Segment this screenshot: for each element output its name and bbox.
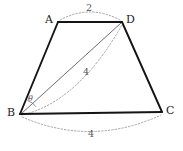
side-DC — [122, 22, 162, 112]
measure-label-BC: 4 — [88, 129, 94, 139]
arc-AD — [60, 12, 120, 20]
geometry-figure: A D B C 2 4 4 θ — [0, 0, 183, 151]
measure-label-AD: 2 — [86, 3, 92, 13]
vertex-label-C: C — [166, 105, 174, 116]
vertex-label-A: A — [45, 14, 53, 25]
arc-BD — [22, 25, 122, 115]
side-AB — [20, 22, 58, 114]
vertex-label-B: B — [7, 107, 15, 118]
side-BC — [20, 112, 162, 114]
diagonal-BD — [21, 23, 121, 114]
angle-label-theta: θ — [28, 95, 33, 103]
measure-label-BD: 4 — [83, 67, 89, 77]
vertex-label-D: D — [126, 14, 135, 25]
